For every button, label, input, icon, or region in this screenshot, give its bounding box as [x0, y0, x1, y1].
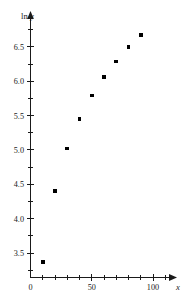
x-axis-arrow: [169, 274, 177, 281]
data-point: [65, 147, 69, 151]
data-point: [139, 33, 143, 37]
data-point: [78, 117, 82, 121]
x-axis: [31, 274, 178, 281]
y-tick-label: 4.0: [14, 215, 24, 224]
plot-canvas: 050100 3.54.04.55.05.56.06.5 ln y x: [0, 0, 186, 299]
x-tick-label: 100: [147, 283, 159, 292]
x-axis-tick-labels: 050100: [28, 283, 159, 292]
y-axis: [27, 11, 34, 278]
scatter-plot-figure: 050100 3.54.04.55.05.56.06.5 ln y x: [0, 0, 186, 299]
y-tick-label: 4.5: [14, 180, 24, 189]
data-point: [41, 260, 45, 264]
y-tick-label: 5.0: [14, 146, 24, 155]
y-axis-tick-labels: 3.54.04.55.05.56.06.5: [14, 43, 24, 258]
x-tick-label: 0: [28, 283, 32, 292]
x-tick-label: 50: [88, 283, 96, 292]
data-point: [53, 189, 57, 193]
data-point: [90, 94, 94, 98]
y-tick-label: 6.5: [14, 43, 24, 52]
y-tick-label: 6.0: [14, 77, 24, 86]
y-tick-label: 3.5: [14, 249, 24, 258]
x-axis-title: x: [175, 282, 180, 292]
data-point: [102, 75, 106, 79]
y-tick-label: 5.5: [14, 112, 24, 121]
data-point: [114, 60, 118, 64]
data-point-series: [41, 33, 143, 263]
data-point: [127, 45, 131, 49]
y-axis-title: ln y: [21, 11, 35, 21]
